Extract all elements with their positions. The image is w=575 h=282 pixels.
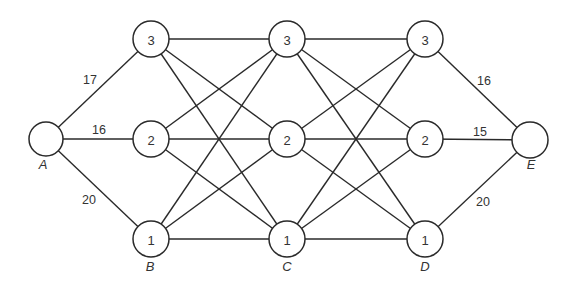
network-diagram: 321321321 ABCDE171620161520: [0, 0, 575, 282]
stage-label-a: A: [38, 157, 48, 172]
node-c3: 3: [269, 21, 305, 57]
edge-d1-e: [425, 140, 530, 239]
node-label: 3: [421, 33, 428, 48]
node-b2: 2: [133, 121, 169, 157]
node-label: 1: [147, 233, 154, 248]
edge-weight-label: 20: [476, 195, 490, 209]
node-b3: 3: [133, 21, 169, 57]
stage-label-d: D: [420, 259, 429, 274]
stage-label-c: C: [282, 259, 292, 274]
edge-weight-label: 15: [473, 125, 487, 139]
node-label: 2: [421, 133, 428, 148]
node-e: [512, 122, 548, 158]
edge-weight-label: 20: [82, 193, 96, 207]
node-c2: 2: [269, 121, 305, 157]
node-label: 2: [147, 133, 154, 148]
node-d1: 1: [407, 221, 443, 257]
node-d2: 2: [407, 121, 443, 157]
node-label: 1: [283, 233, 290, 248]
stage-label-e: E: [527, 157, 536, 172]
edge-weight-label: 16: [477, 74, 491, 88]
stage-label-b: B: [146, 259, 155, 274]
graph-svg: 321321321 ABCDE171620161520: [0, 0, 575, 282]
edge-weight-label: 16: [92, 123, 106, 137]
node-label: 3: [147, 33, 154, 48]
node-circle: [29, 122, 63, 156]
node-a: [29, 122, 63, 156]
node-c1: 1: [269, 221, 305, 257]
node-d3: 3: [407, 21, 443, 57]
node-label: 1: [421, 233, 428, 248]
node-b1: 1: [133, 221, 169, 257]
node-label: 3: [283, 33, 290, 48]
node-label: 2: [283, 133, 290, 148]
edge-a-b1: [46, 139, 151, 239]
edge-weight-label: 17: [83, 73, 97, 87]
node-circle: [512, 122, 548, 158]
